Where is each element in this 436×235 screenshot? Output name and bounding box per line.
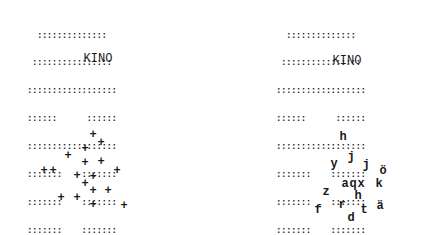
kino-sign: KINO: [84, 54, 113, 65]
letter-mark: z: [322, 187, 329, 198]
building-row: ::::::::::::::: [276, 31, 365, 40]
letter-mark: t: [360, 205, 367, 216]
plus-mark: +: [49, 166, 56, 177]
letter-mark: h: [339, 132, 346, 143]
plus-mark: +: [81, 158, 88, 169]
letter-mark: a: [341, 179, 348, 190]
building-row: ::::::::::::::: [27, 31, 116, 40]
building-row: :::::: ::::::: [27, 114, 116, 123]
building-row: :::::: ::::::: [276, 114, 365, 123]
plus-mark: +: [73, 193, 80, 204]
plus-mark: +: [81, 179, 88, 190]
plus-mark: +: [97, 157, 104, 168]
letter-mark: j: [347, 152, 354, 163]
plus-mark: +: [81, 144, 88, 155]
plus-mark: +: [64, 151, 71, 162]
building-row: ::::::: :::::::: [27, 226, 116, 235]
plus-mark: +: [104, 186, 111, 197]
letter-mark: j: [362, 160, 369, 171]
plus-mark: +: [89, 200, 96, 211]
plus-mark: +: [97, 138, 104, 149]
plus-mark: +: [40, 166, 47, 177]
left-panel: :::::::::::::: :::::::::::::::: ::::::::…: [0, 0, 218, 235]
building-row: ::::::::::::::::::: [27, 86, 116, 95]
plus-mark: +: [89, 172, 96, 183]
plus-mark: +: [89, 186, 96, 197]
letter-mark: h: [354, 191, 361, 202]
plus-mark: +: [89, 130, 96, 141]
letter-mark: ö: [379, 166, 386, 177]
letter-mark: y: [330, 159, 337, 170]
plus-mark: +: [57, 193, 64, 204]
letter-mark: d: [347, 213, 354, 224]
plus-mark: +: [120, 201, 127, 212]
building-row: ::::::: :::::::: [27, 198, 116, 207]
right-panel: :::::::::::::: :::::::::::::::: ::::::::…: [218, 0, 436, 235]
building-row: ::::::: :::::::: [276, 226, 365, 235]
letter-mark: ä: [376, 201, 383, 212]
plus-mark: +: [113, 166, 120, 177]
letter-mark: k: [375, 179, 382, 190]
building-row: ::::::::::::::::::: [276, 86, 365, 95]
plus-mark: +: [73, 171, 80, 182]
cinema-building: :::::::::::::: :::::::::::::::: ::::::::…: [27, 12, 116, 235]
letter-mark: f: [314, 205, 321, 216]
letter-mark: r: [338, 200, 345, 211]
kino-sign: KINO: [333, 56, 362, 67]
